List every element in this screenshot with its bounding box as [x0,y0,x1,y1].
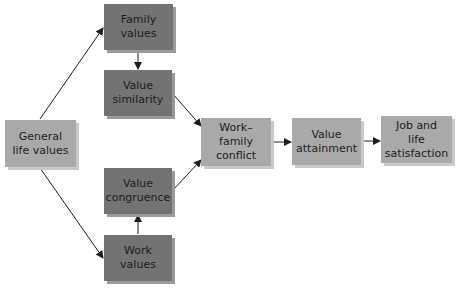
node-label-line: life values [12,144,68,157]
node-label-line: similarity [113,93,164,106]
node-label-line: Family [121,13,156,26]
node-label-line: Work [124,244,152,257]
node-family-values: Familyvalues [104,4,173,50]
arrow-congruence-to-conflict [173,160,201,190]
node-work-family-conflict: Work–familyconflict [201,118,271,166]
node-label-line: values [121,27,157,40]
node-job-life-satisfaction: Job andlifesatisfaction [381,116,452,163]
node-label-line: life [408,133,425,146]
node-label-line: Value [123,177,153,190]
arrow-general-to-work [40,168,103,258]
node-label-line: congruence [106,191,171,204]
node-label-line: Job and [396,119,437,132]
node-label-line: Work–family [219,121,253,148]
node-label-line: Value [311,128,341,141]
node-work-values: Workvalues [104,235,172,281]
node-label-line: General [19,130,62,143]
arrow-similarity-to-conflict [173,94,201,126]
node-general-life-values: Generallife values [5,120,76,167]
node-label-line: conflict [216,149,256,162]
node-label-line: values [120,258,156,271]
node-value-similarity: Valuesimilarity [104,70,172,116]
node-label-line: satisfaction [385,147,448,160]
node-value-attainment: Valueattainment [292,118,361,165]
node-label-line: attainment [296,142,357,155]
arrow-general-to-family [40,28,103,119]
node-value-congruence: Valuecongruence [104,168,172,214]
node-label-line: Value [123,79,153,92]
